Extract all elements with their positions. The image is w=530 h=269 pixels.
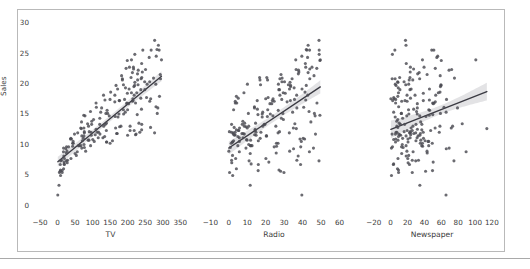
data-point	[266, 108, 269, 111]
data-point	[129, 129, 132, 132]
data-point	[63, 157, 66, 160]
data-point	[82, 137, 85, 140]
data-point	[298, 137, 301, 140]
data-point	[394, 137, 397, 140]
data-point	[302, 106, 305, 109]
data-point	[278, 94, 281, 97]
x-tick-radio-3: 20	[261, 218, 270, 227]
data-point	[98, 117, 101, 120]
data-point	[72, 142, 75, 145]
data-point	[281, 77, 284, 80]
data-point	[84, 150, 87, 153]
data-point	[60, 159, 63, 162]
data-point	[158, 95, 161, 98]
data-point	[304, 98, 307, 101]
data-point	[271, 99, 274, 102]
data-point	[160, 58, 163, 61]
data-point	[391, 77, 394, 80]
data-point	[238, 150, 241, 153]
data-point	[401, 117, 404, 120]
data-point	[109, 91, 112, 94]
data-point	[431, 113, 434, 116]
data-point	[439, 112, 442, 115]
data-point	[82, 126, 85, 129]
data-point	[400, 112, 403, 115]
data-point	[228, 130, 231, 133]
data-point	[415, 110, 418, 113]
data-point	[407, 108, 410, 111]
data-point	[445, 111, 448, 114]
data-point	[62, 150, 65, 153]
data-point	[314, 133, 317, 136]
data-point	[416, 106, 419, 109]
data-point	[126, 108, 129, 111]
data-point	[86, 122, 89, 125]
y-tick-10: 10	[7, 140, 29, 149]
data-point	[103, 135, 106, 138]
data-point	[256, 99, 259, 102]
data-point	[241, 136, 244, 139]
data-point	[122, 83, 125, 86]
y-tick-20: 20	[7, 79, 29, 88]
data-point	[392, 111, 395, 114]
data-point	[242, 91, 245, 94]
data-point	[145, 96, 148, 99]
data-point	[317, 159, 320, 162]
data-point	[237, 129, 240, 132]
data-point	[277, 83, 280, 86]
data-point	[288, 131, 291, 134]
data-point	[293, 122, 296, 125]
data-point	[278, 88, 281, 91]
data-point	[234, 157, 237, 160]
data-point	[95, 128, 98, 131]
data-point	[130, 91, 133, 94]
data-point	[126, 92, 129, 95]
data-point	[409, 66, 412, 69]
data-point	[406, 157, 409, 160]
x-tick-newspaper-3: 40	[420, 218, 429, 227]
data-point	[69, 157, 72, 160]
data-point	[297, 70, 300, 73]
data-point	[275, 145, 278, 148]
data-point	[427, 144, 430, 147]
x-tick-tv-2: 50	[71, 218, 80, 227]
data-point	[94, 133, 97, 136]
figure-root: Sales 051015202530 −50050100150200250300…	[0, 0, 530, 269]
data-point	[247, 112, 250, 115]
data-point	[277, 168, 280, 171]
data-point	[393, 49, 396, 52]
data-point	[140, 62, 143, 65]
data-point	[293, 98, 296, 101]
data-point	[259, 137, 262, 140]
data-point	[266, 115, 269, 118]
data-point	[245, 138, 248, 141]
data-point	[65, 150, 68, 153]
data-point	[295, 159, 298, 162]
data-point	[259, 83, 262, 86]
data-point	[73, 133, 76, 136]
data-point	[59, 168, 62, 171]
x-tick-radio-6: 50	[316, 218, 325, 227]
data-point	[80, 120, 83, 123]
data-point	[104, 112, 107, 115]
data-point	[450, 68, 453, 71]
data-point	[236, 135, 239, 138]
data-point	[244, 147, 247, 150]
data-point	[137, 122, 140, 125]
data-point	[297, 154, 300, 157]
data-point	[403, 123, 406, 126]
data-point	[126, 134, 129, 137]
data-point	[130, 76, 133, 79]
data-point	[133, 84, 136, 87]
data-point	[236, 144, 239, 147]
y-tick-15: 15	[7, 109, 29, 118]
data-point	[254, 122, 257, 125]
data-point	[257, 169, 260, 172]
data-point	[401, 143, 404, 146]
data-point	[159, 77, 162, 80]
data-point	[133, 53, 136, 56]
data-point	[300, 87, 303, 90]
x-tick-tv-8: 350	[173, 218, 187, 227]
data-point	[248, 159, 251, 162]
data-point	[277, 109, 280, 112]
